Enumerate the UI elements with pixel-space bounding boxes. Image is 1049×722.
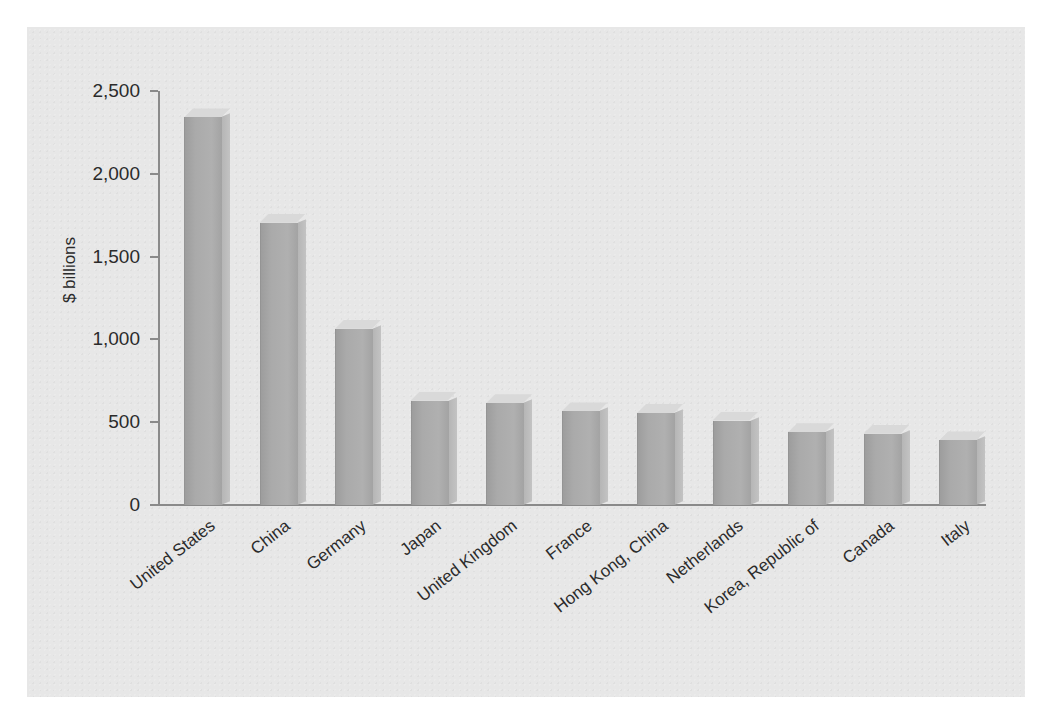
bar-side-face bbox=[674, 409, 683, 505]
bar-front-face bbox=[335, 329, 373, 505]
y-axis-line bbox=[158, 91, 160, 505]
bar-column bbox=[486, 394, 523, 505]
bar-side-face bbox=[523, 400, 532, 505]
bar-column bbox=[184, 108, 221, 505]
bar-column bbox=[260, 214, 297, 505]
bar-column bbox=[335, 320, 372, 505]
bar-side-face bbox=[221, 114, 230, 505]
y-axis-tick bbox=[150, 421, 158, 423]
bar-front-face bbox=[939, 440, 977, 505]
chart-screenshot: $ billions 05001,0001,5002,0002,500 Unit… bbox=[0, 0, 1049, 722]
y-axis-tick-label: 2,000 bbox=[54, 164, 140, 183]
bar-column bbox=[788, 423, 825, 505]
y-axis-tick bbox=[150, 173, 158, 175]
y-axis-tick-label: 2,500 bbox=[54, 81, 140, 100]
y-axis-tick-label: 1,500 bbox=[54, 247, 140, 266]
y-axis-tick bbox=[150, 338, 158, 340]
y-axis-tick bbox=[150, 504, 158, 506]
bar-front-face bbox=[184, 117, 222, 505]
bar-side-face bbox=[825, 428, 834, 504]
bar-front-face bbox=[486, 403, 524, 505]
bar-side-face bbox=[372, 325, 381, 505]
bar-front-face bbox=[562, 411, 600, 505]
bar-column bbox=[637, 404, 674, 505]
y-axis-tick-label: 500 bbox=[54, 412, 140, 431]
bar-front-face bbox=[260, 223, 298, 505]
y-axis-tick-label: 1,000 bbox=[54, 329, 140, 348]
bar-chart: $ billions 05001,0001,5002,0002,500 Unit… bbox=[0, 0, 1049, 722]
bar-side-face bbox=[448, 397, 457, 505]
bar-front-face bbox=[864, 434, 902, 505]
bar-column bbox=[864, 425, 901, 505]
y-axis-tick bbox=[150, 256, 158, 258]
bar-front-face bbox=[788, 432, 826, 505]
bar-front-face bbox=[637, 413, 675, 505]
y-axis-tick-label: 0 bbox=[54, 495, 140, 514]
bar-side-face bbox=[976, 437, 985, 505]
bar-column bbox=[939, 431, 976, 505]
bar-column bbox=[713, 412, 750, 505]
bar-front-face bbox=[411, 401, 449, 505]
bar-side-face bbox=[297, 219, 306, 505]
bar-front-face bbox=[713, 421, 751, 505]
bar-side-face bbox=[901, 430, 910, 505]
bar-side-face bbox=[599, 408, 608, 505]
bar-side-face bbox=[750, 417, 759, 505]
y-axis-title: $ billions bbox=[60, 190, 80, 350]
y-axis-tick bbox=[150, 90, 158, 92]
bar-column bbox=[562, 402, 599, 505]
bar-column bbox=[411, 392, 448, 505]
